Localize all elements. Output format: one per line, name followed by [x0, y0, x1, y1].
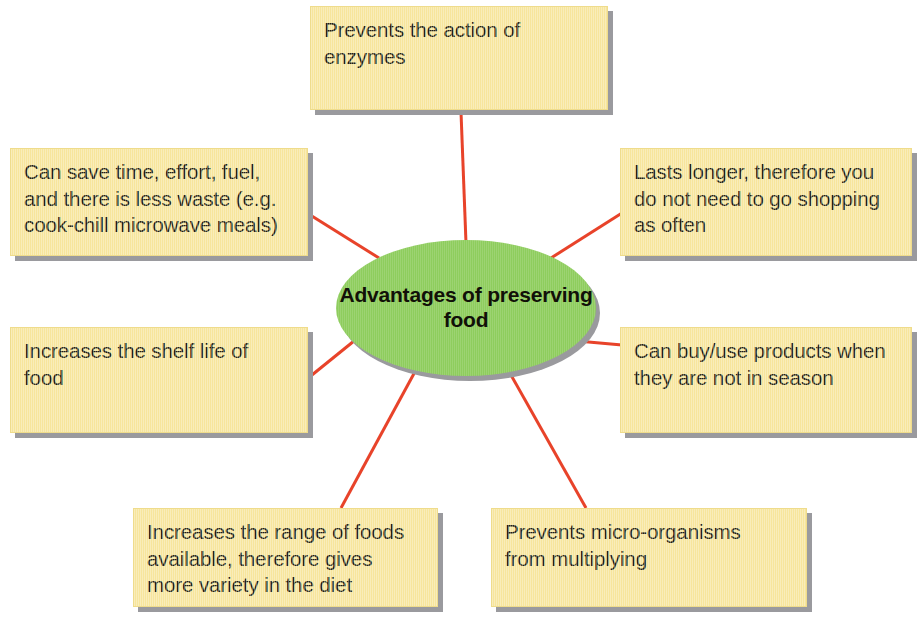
node-text-line: Can save time, effort, fuel,: [24, 159, 295, 186]
node-text-line: Increases the range of foods: [147, 519, 425, 546]
node-text-line: they are not in season: [634, 365, 899, 392]
node-box-middle-right: Can buy/use products when they are not i…: [620, 327, 912, 433]
connector-line-middle-left: [307, 341, 354, 379]
connector-line-bottom-left: [341, 368, 417, 508]
diagram-canvas: Prevents the action of enzymes Can save …: [0, 0, 924, 628]
node-text-line: cook-chill microwave meals): [24, 212, 295, 239]
node-box-bottom-right: Prevents micro-organisms from multiplyin…: [491, 508, 807, 607]
connector-line-bottom-right: [507, 368, 586, 508]
node-box-bottom-left: Increases the range of foods available, …: [133, 508, 438, 607]
node-text-line: enzymes: [324, 44, 595, 71]
connector-line-top-right: [551, 213, 622, 258]
connector-line-top-left: [307, 213, 379, 258]
center-label-line: Advantages of: [339, 283, 481, 306]
node-text-line: available, therefore gives: [147, 546, 425, 573]
node-text-line: as often: [634, 212, 899, 239]
center-node-ellipse: Advantages of preserving food: [336, 240, 596, 376]
node-text-line: Lasts longer, therefore you: [634, 159, 899, 186]
node-text-line: food: [24, 365, 295, 392]
node-box-middle-left: Increases the shelf life of food: [10, 327, 308, 433]
node-text-line: Prevents micro-organisms: [505, 519, 794, 546]
node-text-line: more variety in the diet: [147, 572, 425, 599]
connector-line-top: [461, 112, 466, 243]
node-text-line: Increases the shelf life of: [24, 338, 295, 365]
node-text-line: and there is less waste (e.g.: [24, 186, 295, 213]
node-text-line: from multiplying: [505, 546, 794, 573]
node-text-line: Can buy/use products when: [634, 338, 899, 365]
node-box-top-right: Lasts longer, therefore you do not need …: [620, 148, 912, 256]
node-text-line: do not need to go shopping: [634, 186, 899, 213]
node-box-top-left: Can save time, effort, fuel, and there i…: [10, 148, 308, 256]
node-box-top: Prevents the action of enzymes: [310, 6, 608, 110]
node-text-line: Prevents the action of: [324, 17, 595, 44]
center-node-label: Advantages of preserving food: [336, 283, 596, 333]
